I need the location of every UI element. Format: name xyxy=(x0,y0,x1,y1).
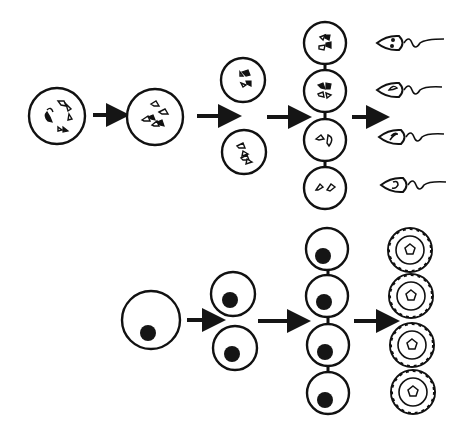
column-cell-1 xyxy=(304,22,346,64)
connected-cells-bottom xyxy=(306,228,349,414)
column-cell-4 xyxy=(304,167,346,209)
follicle-cell-4 xyxy=(391,370,435,414)
bottom-row xyxy=(122,228,435,414)
flagellated-cell-3 xyxy=(379,130,444,144)
large-cell xyxy=(122,291,180,349)
column-cell-2 xyxy=(304,70,346,112)
column-cell-3 xyxy=(304,119,346,161)
flagellated-cell-1 xyxy=(377,36,444,50)
follicle-cell-3 xyxy=(390,323,434,367)
follicle-cell-1 xyxy=(388,228,432,272)
top-row xyxy=(29,22,446,209)
daughter-cells xyxy=(211,272,257,370)
follicle-cells xyxy=(388,228,435,414)
nucleus xyxy=(140,325,156,341)
flagellated-cell-2 xyxy=(377,83,442,97)
primary-cell xyxy=(29,88,85,144)
diagram-canvas xyxy=(0,0,474,437)
follicle-cell-2 xyxy=(389,274,433,318)
secondary-cell-top xyxy=(221,58,265,102)
replicated-cell xyxy=(127,89,183,145)
connected-cells-top xyxy=(304,22,346,209)
flagellated-cell-4 xyxy=(381,178,446,192)
flagellated-cells xyxy=(377,36,446,192)
